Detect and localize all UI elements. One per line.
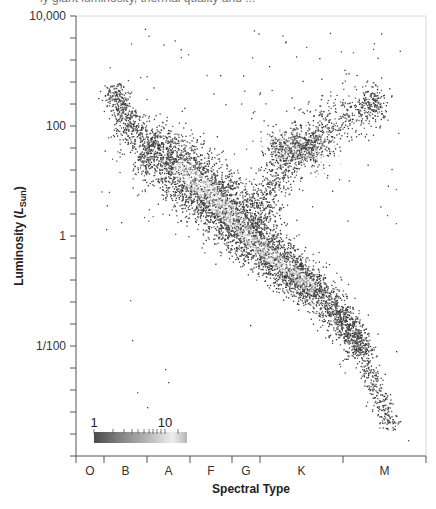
hr-diagram-chart: 10,00010011/100 OBAFGKM Luminosity (LSun… (0, 0, 436, 509)
x-axis: OBAFGKM (76, 456, 426, 478)
y-tick-label: 1 (59, 229, 66, 243)
y-tick-label: 100 (46, 119, 66, 133)
x-category-B: B (121, 464, 129, 478)
x-category-K: K (297, 464, 305, 478)
y-axis-title: Luminosity (LSun) (12, 186, 28, 286)
y-tick-label: 1/100 (36, 339, 66, 353)
y-axis: 10,00010011/100 (29, 9, 76, 456)
x-axis-title: Spectral Type (212, 482, 290, 496)
x-category-G: G (241, 464, 250, 478)
y-tick-label: 10,000 (29, 9, 66, 23)
scatter-points (98, 29, 409, 442)
x-category-M: M (380, 464, 390, 478)
colorbar-min-label: 1 (90, 415, 97, 430)
x-category-F: F (207, 464, 214, 478)
x-category-O: O (85, 464, 94, 478)
x-category-A: A (164, 464, 172, 478)
colorbar-max-label: 10 (158, 415, 172, 430)
density-colorbar: 1 10 (90, 415, 187, 443)
